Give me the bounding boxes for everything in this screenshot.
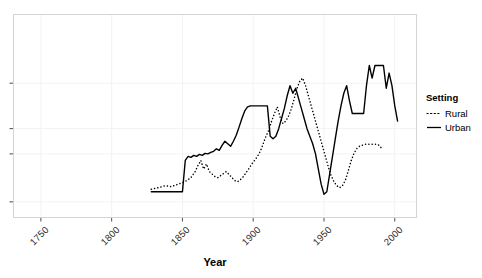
- x-axis-title: Year: [0, 256, 430, 268]
- legend-label-rural: Rural: [445, 108, 468, 119]
- legend-key-rural-icon: [426, 107, 442, 120]
- legend: Setting Rural Urban: [426, 92, 480, 135]
- legend-item-urban[interactable]: Urban: [426, 121, 480, 134]
- legend-key-urban-icon: [426, 121, 442, 134]
- y-axis-ticks: [10, 83, 14, 202]
- x-axis-ticks: [41, 218, 395, 222]
- legend-label-urban: Urban: [445, 122, 471, 133]
- legend-title: Setting: [426, 92, 480, 103]
- chart-root: 175018001850190019502000 Year Setting Ru…: [0, 0, 482, 278]
- legend-item-rural[interactable]: Rural: [426, 107, 480, 120]
